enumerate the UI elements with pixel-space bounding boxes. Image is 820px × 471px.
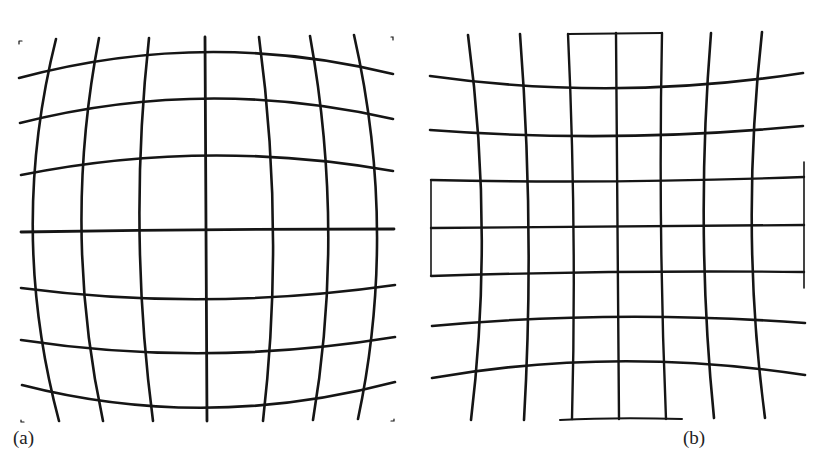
- panel-b-pincushion-distortion: (b): [410, 0, 820, 471]
- panel-a-barrel-distortion: (a): [0, 0, 410, 471]
- panel-label-a: (a): [13, 427, 34, 449]
- panel-label-b: (b): [683, 427, 705, 449]
- pincushion-grid-graphic: [410, 0, 820, 471]
- barrel-grid-graphic: [0, 0, 410, 471]
